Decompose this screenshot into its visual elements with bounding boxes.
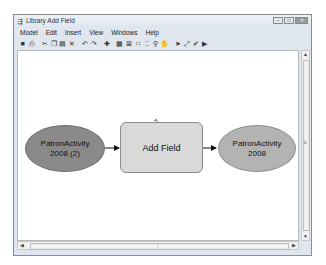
add-field-tool-node[interactable]: Add Field xyxy=(120,122,203,173)
vertical-scrollbar[interactable]: ▲ ≡ ▼ xyxy=(301,50,310,241)
menu-view[interactable]: View xyxy=(89,28,103,38)
horizontal-scrollbar[interactable]: ◀ ⦙ ▶ xyxy=(17,241,299,250)
scroll-down-arrow-icon[interactable]: ▼ xyxy=(303,234,308,239)
input-node-label-line1: PatronActivity xyxy=(41,139,90,149)
window-title: Library Add Field xyxy=(26,17,75,24)
full-extent-icon[interactable]: ⊠ xyxy=(124,39,133,48)
save-icon[interactable]: ■ xyxy=(18,39,27,48)
grip-icon: ≡ xyxy=(304,139,307,145)
model-builder-icon: ⇶ xyxy=(17,18,23,25)
menu-model[interactable]: Model xyxy=(20,28,38,38)
paste-icon[interactable]: ▤ xyxy=(58,39,67,48)
scroll-right-arrow-icon[interactable]: ▶ xyxy=(292,243,296,248)
menu-windows[interactable]: Windows xyxy=(111,28,137,38)
input-node-label-line2: 2008 (2) xyxy=(41,149,90,159)
run-icon[interactable]: ▶ xyxy=(200,39,209,48)
model-builder-window: ⇶ Library Add Field – □ ✕ Model Edit Ins… xyxy=(13,14,312,256)
title-bar[interactable]: ⇶ Library Add Field – □ ✕ xyxy=(14,15,311,28)
fixed-zoom-out-icon[interactable]: ⁚⁚ xyxy=(142,39,151,48)
horizontal-scroll-thumb[interactable]: ⦙ xyxy=(30,243,289,250)
maximize-button[interactable]: □ xyxy=(284,17,294,24)
menu-help[interactable]: Help xyxy=(146,28,159,38)
connect-icon[interactable]: ⤢ xyxy=(182,39,191,48)
print-icon[interactable]: ⎙ xyxy=(27,39,36,48)
undo-icon[interactable]: ↶ xyxy=(80,39,89,48)
zoom-icon[interactable]: ⚲ xyxy=(151,39,160,48)
add-data-icon[interactable]: ✚ xyxy=(102,39,111,48)
toolbar: ■⎙✂❐▤✕↶↷✚▦⊠∷⁚⁚⚲✋➤⤢✔▶ xyxy=(14,38,311,49)
model-canvas[interactable]: PatronActivity 2008 (2) Add Field Patron… xyxy=(17,50,299,241)
vertical-scroll-thumb[interactable]: ≡ xyxy=(303,60,310,231)
output-node-label-line1: PatronActivity xyxy=(233,139,282,149)
close-button[interactable]: ✕ xyxy=(295,17,308,24)
fixed-zoom-in-icon[interactable]: ∷ xyxy=(133,39,142,48)
scroll-up-arrow-icon[interactable]: ▲ xyxy=(303,52,308,57)
minimize-button[interactable]: – xyxy=(273,17,283,24)
output-data-node[interactable]: PatronActivity 2008 xyxy=(218,125,296,172)
copy-icon[interactable]: ❐ xyxy=(49,39,58,48)
delete-icon[interactable]: ✕ xyxy=(67,39,76,48)
auto-layout-icon[interactable]: ▦ xyxy=(115,39,124,48)
pan-icon[interactable]: ✋ xyxy=(160,39,169,48)
output-node-label-line2: 2008 xyxy=(233,149,282,159)
menu-edit[interactable]: Edit xyxy=(46,28,57,38)
scroll-left-arrow-icon[interactable]: ◀ xyxy=(20,243,24,248)
cut-icon[interactable]: ✂ xyxy=(40,39,49,48)
grip-icon: ⦙ xyxy=(157,243,158,250)
validate-icon[interactable]: ✔ xyxy=(191,39,200,48)
redo-icon[interactable]: ↷ xyxy=(89,39,98,48)
input-data-node[interactable]: PatronActivity 2008 (2) xyxy=(25,125,105,172)
tool-node-label: Add Field xyxy=(142,143,180,153)
menu-insert[interactable]: Insert xyxy=(65,28,81,38)
select-icon[interactable]: ➤ xyxy=(173,39,182,48)
menu-bar: Model Edit Insert View Windows Help xyxy=(14,28,311,38)
